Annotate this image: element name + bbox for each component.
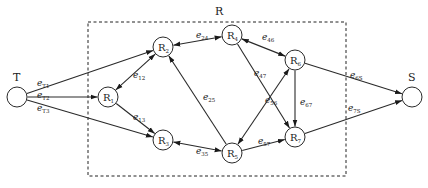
edge-e7S — [305, 100, 402, 133]
relay-node-R2: R2 — [153, 37, 173, 57]
terminal-label-T: T — [13, 71, 21, 84]
edge-label-e24: e24 — [196, 30, 209, 41]
region-label: R — [215, 5, 224, 18]
relay-node-R6: R6 — [285, 50, 305, 70]
relay-node-R4: R4 — [222, 25, 242, 45]
relay-node-R3: R3 — [153, 130, 173, 150]
edge-label-e25: e25 — [203, 92, 216, 103]
relay-region-box — [88, 22, 346, 176]
edge-label-e57: e57 — [258, 136, 271, 147]
terminal-label-S: S — [408, 71, 416, 84]
edge-e25 — [169, 56, 227, 144]
network-diagram: R eT1eT2eT3e12e13e24e25e35e46e47e56e57e6… — [0, 0, 428, 188]
nodes-layer: TSR1R2R3R4R5R6R7 — [7, 25, 422, 163]
relay-node-R5: R5 — [222, 143, 242, 163]
edge-e56 — [238, 69, 289, 145]
edge-label-e47: e47 — [254, 68, 267, 79]
terminal-node-S — [402, 87, 422, 107]
edge-label-e67: e67 — [300, 97, 313, 108]
edge-e47 — [238, 44, 290, 128]
edge-label-eT1: eT1 — [37, 78, 50, 89]
terminal-node-T — [7, 87, 27, 107]
edge-label-e7S: e7S — [348, 103, 361, 114]
edge-label-e13: e13 — [133, 112, 146, 123]
edge-label-e6S: e6S — [350, 70, 363, 81]
relay-node-R7: R7 — [285, 127, 305, 147]
edge-label-e12: e12 — [133, 70, 145, 81]
relay-node-R1: R1 — [98, 87, 118, 107]
edge-label-eT2: eT2 — [37, 90, 50, 101]
edge-labels-layer: eT1eT2eT3e12e13e24e25e35e46e47e56e57e67e… — [37, 30, 363, 157]
edge-label-e46: e46 — [262, 32, 275, 43]
edge-label-e56: e56 — [265, 95, 278, 106]
